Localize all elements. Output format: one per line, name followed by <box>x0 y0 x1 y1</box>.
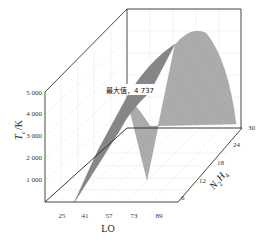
svg-text:41: 41 <box>82 212 90 220</box>
svg-text:89: 89 <box>156 212 164 220</box>
svg-text:24: 24 <box>233 141 241 149</box>
svg-text:5 000: 5 000 <box>26 89 42 97</box>
y-axis-label: N 2 H 4 <box>206 167 232 194</box>
z-axis-ticks: 1 000 2 000 3 000 4 000 5 000 <box>26 89 42 184</box>
svg-text:/K: /K <box>13 119 24 130</box>
svg-text:25: 25 <box>59 212 67 220</box>
z-axis-label: T c /K <box>13 119 27 140</box>
svg-text:1 000: 1 000 <box>26 176 42 184</box>
svg-text:30: 30 <box>248 124 256 132</box>
x-axis-ticks: 25 41 57 73 89 <box>59 212 164 220</box>
svg-text:18: 18 <box>217 159 225 167</box>
svg-text:最大值，4 737: 最大值，4 737 <box>106 86 154 95</box>
svg-text:6: 6 <box>181 194 185 202</box>
svg-text:73: 73 <box>131 212 139 220</box>
max-annotation: 最大值，4 737 <box>104 84 157 95</box>
svg-text:57: 57 <box>106 212 114 220</box>
surface-plot: 1 000 2 000 3 000 4 000 5 000 T c /K 25 … <box>0 0 264 241</box>
svg-text:3 000: 3 000 <box>26 132 42 140</box>
svg-text:4 000: 4 000 <box>26 110 42 118</box>
x-axis-label: LO <box>101 223 114 234</box>
svg-text:12: 12 <box>199 177 207 185</box>
surface <box>74 31 236 203</box>
svg-text:2 000: 2 000 <box>26 154 42 162</box>
